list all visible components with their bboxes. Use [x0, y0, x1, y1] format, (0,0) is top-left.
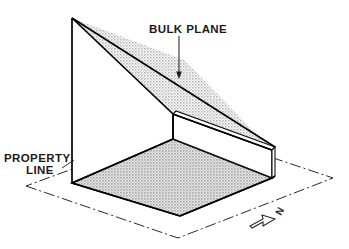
north-label: N — [273, 205, 286, 217]
bulk-plane-diagram: BULK PLANE PROPERTY LINE N — [0, 0, 349, 249]
north-arrow-glyph — [250, 215, 275, 228]
low-wall-end-cap — [272, 147, 275, 178]
property-line-label-bottom: LINE — [26, 164, 54, 176]
north-arrow-icon: N — [250, 205, 286, 228]
property-line-label-top: PROPERTY — [4, 152, 70, 164]
diagram-canvas: BULK PLANE PROPERTY LINE N — [0, 0, 349, 249]
bulk-plane-label: BULK PLANE — [149, 23, 227, 35]
